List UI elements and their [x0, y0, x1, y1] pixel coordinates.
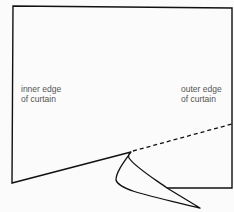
outer-edge-label-line1: outer edge: [181, 84, 222, 94]
diagram-drawing: [0, 0, 234, 212]
outer-edge-label-line2: of curtain: [181, 94, 222, 104]
inner-edge-label-line1: inner edge: [21, 84, 61, 94]
inner-edge-label: inner edge of curtain: [21, 84, 61, 104]
curtain-fold-diagram: inner edge of curtain outer edge of curt…: [0, 0, 234, 212]
folded-corner-flap: [116, 152, 200, 208]
inner-edge-label-line2: of curtain: [21, 94, 61, 104]
outer-edge-label: outer edge of curtain: [181, 84, 222, 104]
fold-line-dashed: [133, 124, 232, 151]
